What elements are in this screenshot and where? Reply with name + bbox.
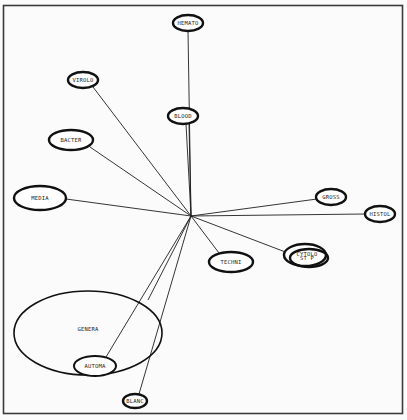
node-gross: GROSS — [316, 189, 346, 205]
node-techni: TECHNI — [209, 252, 253, 272]
edge-hub-to-automa — [106, 216, 191, 357]
nodes-layer: HEMATOVIROLOBLOODBACTERMEDIAGROSSHISTOLC… — [14, 15, 395, 408]
network-diagram: HEMATOVIROLOBLOODBACTERMEDIAGROSSHISTOLC… — [0, 0, 407, 420]
diagram-frame — [4, 6, 403, 414]
node-histol: HISTOL — [365, 206, 395, 222]
node-label: BLANC — [126, 398, 144, 404]
node-bacter: BACTER — [49, 130, 93, 150]
edge-hub-to-bacter — [90, 147, 191, 216]
node-label: HEMATO — [177, 20, 198, 26]
edge-hub-to-blanc — [139, 216, 191, 394]
node-label: GROSS — [322, 194, 340, 200]
edge-hub-to-virolo — [93, 87, 191, 216]
node-hemato: HEMATO — [173, 15, 203, 31]
edges-layer — [66, 31, 365, 394]
edge-hub-to-genera — [148, 216, 191, 300]
node-cytolo: CYTOLOST P — [284, 244, 328, 267]
node-label: MEDIA — [31, 195, 49, 201]
node-label: BACTER — [60, 137, 82, 143]
edge-hub-to-media — [66, 199, 191, 216]
node-label: ST P — [300, 255, 315, 261]
node-label: GENERA — [77, 326, 99, 332]
node-label: HISTOL — [369, 211, 391, 217]
edge-hub-to-gross — [191, 199, 317, 216]
diagram-canvas: HEMATOVIROLOBLOODBACTERMEDIAGROSSHISTOLC… — [0, 0, 407, 420]
node-blanc: BLANC — [123, 394, 147, 408]
node-media: MEDIA — [14, 186, 66, 210]
node-label: BLOOD — [174, 113, 192, 119]
edge-hub-to-histol — [191, 214, 365, 216]
node-label: VIROLO — [72, 77, 93, 83]
node-virolo: VIROLO — [68, 72, 98, 88]
node-automa: AUTOMA — [74, 356, 116, 376]
node-blood: BLOOD — [168, 108, 198, 124]
node-label: TECHNI — [220, 259, 241, 265]
node-label: AUTOMA — [84, 363, 106, 369]
